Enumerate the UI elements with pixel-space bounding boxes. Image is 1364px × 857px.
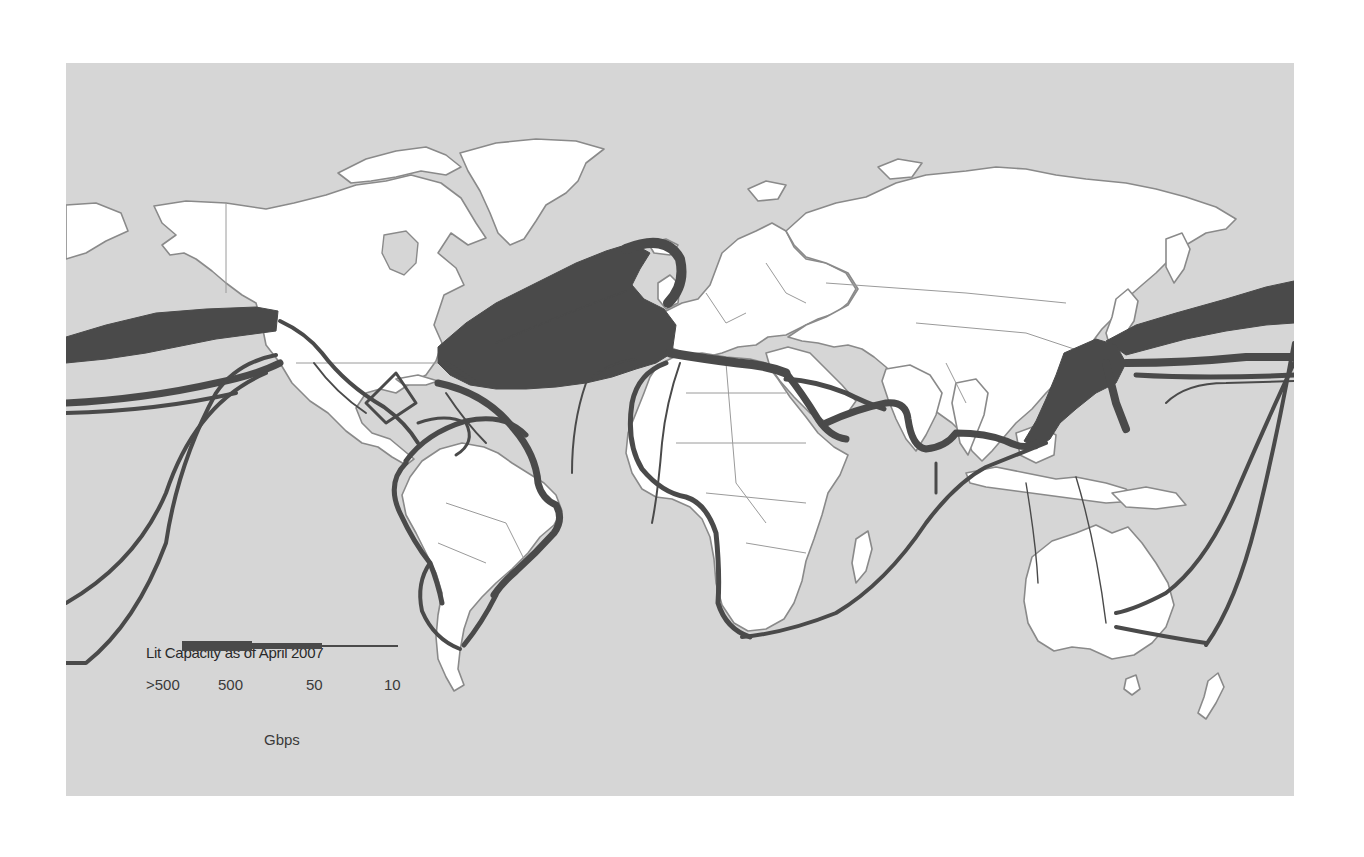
land-svalbard (748, 181, 786, 201)
land-australia (1024, 525, 1174, 659)
legend: Lit Capacity as of April 2007 >500 500 5… (146, 638, 416, 758)
land-chukotka-left (66, 203, 128, 259)
land-kamchatka (1166, 233, 1190, 283)
legend-tick-50: 50 (306, 676, 323, 693)
land-indonesia (966, 467, 1136, 503)
legend-unit: Gbps (264, 731, 300, 748)
legend-tick-500: 500 (218, 676, 243, 693)
land-madagascar (852, 531, 872, 583)
land-new-guinea (1112, 487, 1186, 509)
cable-transpacific-north-west (66, 307, 278, 363)
legend-tick-10: 10 (384, 676, 401, 693)
legend-capacity-bar (146, 638, 406, 654)
land-new-zealand (1198, 673, 1224, 719)
land-tasmania (1124, 675, 1140, 695)
land-greenland (460, 139, 604, 245)
land-novaya-zemlya (878, 159, 922, 179)
cable-transatlantic (438, 243, 676, 389)
legend-tick-gt500: >500 (146, 676, 180, 693)
land-asia (786, 167, 1236, 461)
map-frame: Lit Capacity as of April 2007 >500 500 5… (66, 63, 1294, 796)
